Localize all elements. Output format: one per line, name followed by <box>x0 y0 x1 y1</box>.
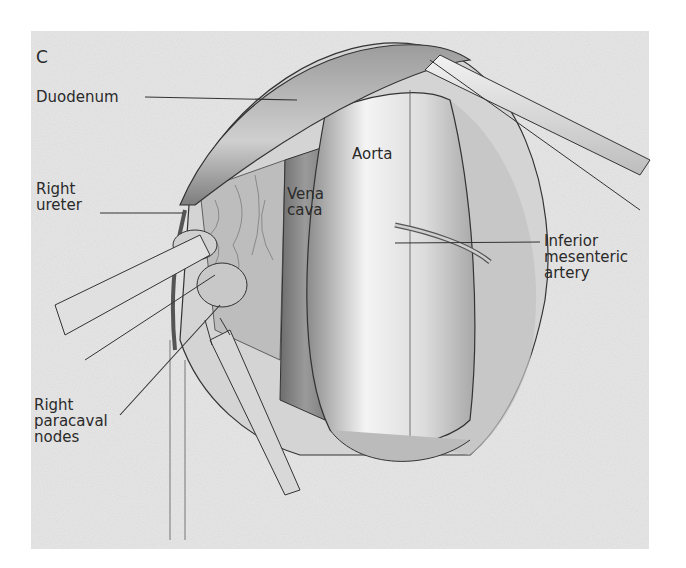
panel-letter: C <box>36 47 48 67</box>
label-vena-cava: Vena cava <box>287 186 324 218</box>
label-duodenum: Duodenum <box>36 89 119 105</box>
label-aorta: Aorta <box>352 146 392 162</box>
surgical-illustration <box>0 0 686 568</box>
label-inferior-mesenteric-artery: Inferior mesenteric artery <box>544 233 628 281</box>
label-right-paracaval-nodes: Right paracaval nodes <box>34 397 108 445</box>
label-right-ureter: Right ureter <box>36 181 82 213</box>
